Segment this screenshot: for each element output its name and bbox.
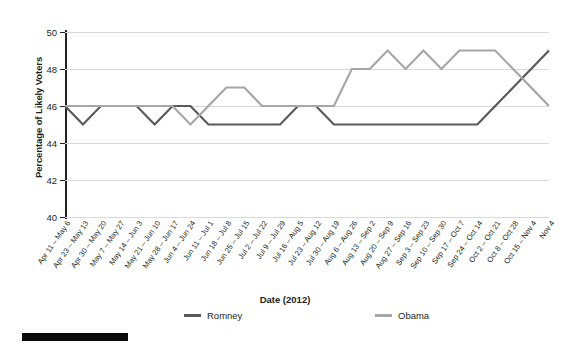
bottom-redaction-bar bbox=[22, 333, 128, 341]
x-axis-title: Date (2012) bbox=[0, 294, 570, 305]
y-axis-title: Percentage of Likely Voters bbox=[33, 18, 44, 218]
x-axis-tick-labels: Apr 11 – May 6Apr 23 – May 13Apr 30 – Ma… bbox=[65, 219, 549, 291]
y-axis-tick-label: 42 bbox=[46, 175, 57, 186]
legend-item-romney: Romney bbox=[184, 310, 242, 321]
chart-legend: Romney Obama bbox=[0, 310, 570, 326]
y-axis-tick-label: 50 bbox=[46, 27, 57, 38]
y-axis-tick-label: 44 bbox=[46, 138, 57, 149]
legend-label-romney: Romney bbox=[207, 310, 242, 321]
legend-swatch-romney bbox=[184, 314, 201, 317]
y-axis-tick-label: 46 bbox=[46, 101, 57, 112]
chart-figure: Percentage of Likely Voters 404244464850… bbox=[0, 0, 570, 344]
y-axis-tick-label: 48 bbox=[46, 64, 57, 75]
y-axis-tick-label: 40 bbox=[46, 212, 57, 223]
x-axis-tick-label: Nov 4 bbox=[549, 203, 568, 224]
series-line-obama bbox=[65, 51, 549, 125]
legend-item-obama: Obama bbox=[375, 310, 429, 321]
legend-label-obama: Obama bbox=[398, 310, 429, 321]
legend-swatch-obama bbox=[375, 314, 392, 317]
series-line-romney bbox=[65, 51, 549, 125]
